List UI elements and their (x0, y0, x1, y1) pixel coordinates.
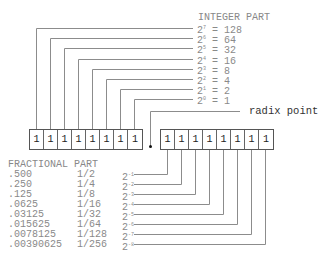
bit-cell: 1 (72, 130, 86, 149)
bit-cell: 1 (189, 130, 203, 149)
bit-cell: 1 (100, 130, 114, 149)
power-label: 20 = 1 (197, 94, 230, 107)
decimal-value: .00390625 (8, 240, 62, 250)
power-exponent: -3 (128, 192, 134, 198)
leader-2-2 (107, 80, 194, 131)
fractional-bit-register: 1 1 1 1 1 1 1 1 (160, 129, 274, 150)
leader-2-m2 (134, 150, 182, 185)
leader-2-4 (79, 60, 194, 131)
radix-point-dot (149, 145, 152, 148)
bit-cell: 1 (44, 130, 58, 149)
leader-2-m6 (134, 150, 238, 225)
leader-2-m1 (134, 150, 168, 175)
leader-2-m3 (134, 150, 196, 195)
bit-cell: 1 (245, 130, 259, 149)
radix-point-label: radix point (249, 106, 318, 116)
power-exponent: -5 (128, 212, 134, 218)
bit-cell: 1 (231, 130, 245, 149)
integer-bit-register: 1 1 1 1 1 1 1 1 (29, 129, 143, 150)
bit-cell: 1 (175, 130, 189, 149)
bit-cell: 1 (30, 130, 44, 149)
leader-2-m7 (134, 150, 252, 235)
integer-part-heading: INTEGER PART (198, 13, 270, 23)
leader-2-1 (121, 90, 194, 131)
power-exponent: -8 (128, 242, 134, 248)
power-value: = 1 (206, 96, 230, 107)
bit-cell: 1 (114, 130, 128, 149)
power-exponent: -2 (128, 182, 134, 188)
bit-cell: 1 (86, 130, 100, 149)
power-exponent: -1 (128, 172, 134, 178)
power-exponent: -4 (128, 202, 134, 208)
bit-cell: 1 (217, 130, 231, 149)
binary-fixed-point-diagram: INTEGER PART 27 = 128 26 = 64 25 = 32 24… (0, 0, 328, 263)
bit-cell: 1 (58, 130, 72, 149)
power-exponent: -7 (128, 232, 134, 238)
leader-2-m4 (134, 150, 210, 205)
bit-cell: 1 (203, 130, 217, 149)
bit-cell: 1 (161, 130, 175, 149)
bit-cell: 1 (128, 130, 142, 149)
fraction-value: 1/256 (77, 240, 107, 250)
leader-2-6 (51, 39, 194, 131)
power-exponent: -6 (128, 222, 134, 228)
power-label: 2-8 (122, 240, 134, 253)
leader-2-m8 (134, 150, 266, 245)
leader-2-0 (135, 100, 194, 131)
bit-cell: 1 (259, 130, 273, 149)
